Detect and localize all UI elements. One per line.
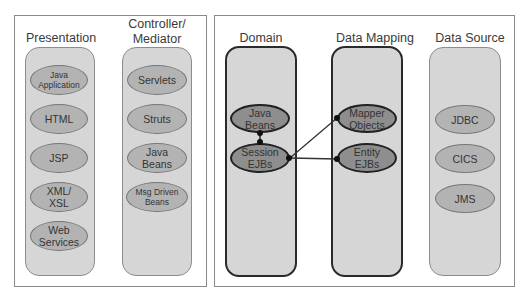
java-application-node: Java Application (30, 65, 88, 95)
data-source-title: Data Source (425, 31, 515, 46)
struts-node: Struts (127, 104, 187, 134)
jms-node: JMS (435, 184, 495, 213)
jdbc-node: JDBC (435, 105, 495, 134)
java-beans-domain-node: Java Beans (230, 104, 290, 133)
xml-xsl-node: XML/ XSL (30, 182, 88, 212)
html-node: HTML (30, 104, 88, 134)
web-services-node: Web Services (30, 221, 88, 251)
msg-driven-beans-node: Msg Driven Beans (126, 182, 188, 212)
jsp-node: JSP (30, 143, 88, 173)
controller-mediator-title: Controller/ Mediator (112, 17, 202, 47)
entity-ejbs-node: Entity EJBs (337, 143, 397, 173)
servlets-node: Servlets (127, 65, 187, 95)
domain-title: Domain (215, 31, 307, 46)
java-beans-controller-node: Java Beans (127, 143, 187, 173)
data-mapping-title: Data Mapping (325, 31, 425, 46)
session-ejbs-node: Session EJBs (230, 143, 290, 173)
cics-node: CICS (435, 144, 495, 173)
mapper-objects-node: Mapper Objects (337, 104, 397, 133)
presentation-title: Presentation (16, 31, 106, 46)
